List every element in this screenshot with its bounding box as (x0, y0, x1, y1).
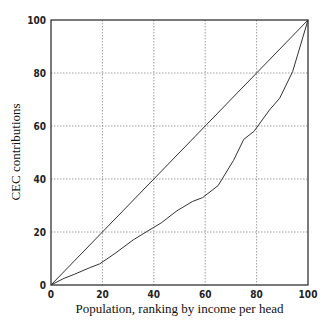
x-tick-label: 60 (199, 289, 212, 300)
y-tick-label: 40 (33, 174, 46, 185)
x-axis-label: Population, ranking by income per head (76, 301, 284, 316)
series-lines (51, 20, 308, 285)
x-tick-label: 20 (96, 289, 109, 300)
y-tick-label: 80 (33, 68, 46, 79)
equality-line (51, 20, 308, 285)
lorenz-chart: 020406080100 020406080100 Population, ra… (0, 0, 330, 331)
y-tick-label: 100 (27, 15, 46, 26)
y-axis-label: CEC contributions (8, 103, 23, 200)
y-tick-labels: 020406080100 (27, 15, 46, 291)
x-tick-labels: 020406080100 (48, 289, 318, 300)
y-tick-label: 0 (40, 280, 46, 291)
y-tick-label: 20 (33, 227, 46, 238)
x-tick-label: 100 (299, 289, 318, 300)
x-tick-label: 40 (148, 289, 161, 300)
x-tick-label: 0 (48, 289, 54, 300)
x-tick-label: 80 (250, 289, 263, 300)
y-tick-label: 60 (33, 121, 46, 132)
